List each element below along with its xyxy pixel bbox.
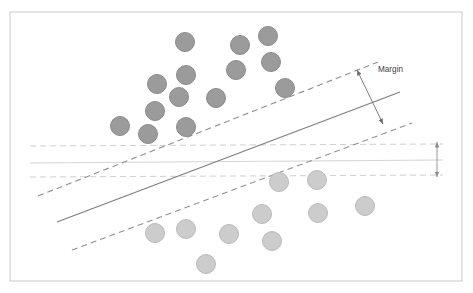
plot-canvas: Margin: [0, 0, 473, 293]
data-point-circle: [170, 88, 189, 107]
data-point-circle: [270, 173, 289, 192]
data-point-circle: [177, 220, 196, 239]
data-point-circle: [309, 204, 328, 223]
data-point-circle: [177, 118, 196, 137]
data-point-circle: [263, 232, 282, 251]
data-point-circle: [146, 102, 165, 121]
data-point-circle: [356, 197, 375, 216]
data-point-circle: [308, 171, 327, 190]
margin-label: Margin: [378, 65, 403, 74]
data-point-circle: [146, 224, 165, 243]
data-point-circle: [148, 75, 167, 94]
text-annotations: Margin: [378, 65, 403, 74]
data-point-circle: [111, 117, 130, 136]
data-point-circle: [262, 53, 281, 72]
data-point-circle: [197, 255, 216, 274]
data-point-circle: [231, 36, 250, 55]
svm-margin-figure: Margin: [0, 0, 473, 293]
data-point-circle: [227, 61, 246, 80]
data-point-circle: [253, 205, 272, 224]
data-point-circle: [176, 33, 195, 52]
data-point-circle: [207, 89, 226, 108]
data-point-circle: [259, 27, 278, 46]
data-point-circle: [276, 79, 295, 98]
data-point-circle: [177, 66, 196, 85]
data-point-circle: [220, 225, 239, 244]
data-point-circle: [139, 125, 158, 144]
